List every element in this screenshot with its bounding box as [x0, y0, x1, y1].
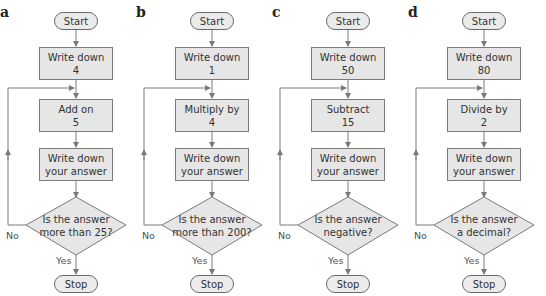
decision-line1: Is the answer — [298, 213, 398, 226]
step-text-line2: 4 — [176, 116, 248, 129]
decision-line1: Is the answer — [434, 213, 534, 226]
step-write-answer: Write down your answer — [447, 148, 521, 181]
step-write-initial: Write down 50 — [311, 47, 385, 80]
decision-text: Is the answer negative? — [298, 213, 398, 239]
step-write-answer: Write down your answer — [39, 148, 113, 181]
decision-line2: more than 25? — [26, 226, 126, 239]
step-write-initial: Write down 80 — [447, 47, 521, 80]
decision-text: Is the answer more than 25? — [26, 213, 126, 239]
step-text-line2: 5 — [40, 116, 112, 129]
stop-terminal: Stop — [190, 275, 234, 293]
step-text-line1: Multiply by — [176, 103, 248, 116]
step-text-line2: 50 — [312, 64, 384, 77]
decision-line1: Is the answer — [26, 213, 126, 226]
step-operation: Subtract 15 — [311, 99, 385, 132]
step-text-line2: 1 — [176, 64, 248, 77]
step-write-initial: Write down 4 — [39, 47, 113, 80]
step-text-line2: 15 — [312, 116, 384, 129]
step-operation: Multiply by 4 — [175, 99, 249, 132]
panel-letter: a — [0, 4, 9, 20]
no-label: No — [6, 230, 19, 241]
step-text-line2: 4 — [40, 64, 112, 77]
decision-line2: more than 200? — [162, 226, 262, 239]
step-text-line2: your answer — [448, 165, 520, 178]
decision-line2: a decimal? — [434, 226, 534, 239]
step-write-initial: Write down 1 — [175, 47, 249, 80]
step-text-line1: Add on — [40, 103, 112, 116]
decision-line2: negative? — [298, 226, 398, 239]
step-text-line1: Divide by — [448, 103, 520, 116]
start-terminal: Start — [326, 12, 370, 30]
step-text-line1: Subtract — [312, 103, 384, 116]
step-text-line1: Write down — [312, 152, 384, 165]
yes-label: Yes — [56, 255, 71, 266]
panel-letter: c — [272, 4, 281, 20]
step-text-line1: Write down — [312, 51, 384, 64]
decision-text: Is the answer a decimal? — [434, 213, 534, 239]
yes-label: Yes — [464, 255, 479, 266]
panel-letter: d — [408, 4, 418, 20]
stop-terminal: Stop — [54, 275, 98, 293]
stop-terminal: Stop — [462, 275, 506, 293]
no-label: No — [278, 230, 291, 241]
decision-text: Is the answer more than 200? — [162, 213, 262, 239]
step-write-answer: Write down your answer — [311, 148, 385, 181]
step-write-answer: Write down your answer — [175, 148, 249, 181]
no-label: No — [142, 230, 155, 241]
panel-letter: b — [136, 4, 146, 20]
step-text-line2: 2 — [448, 116, 520, 129]
stop-terminal: Stop — [326, 275, 370, 293]
step-text-line1: Write down — [176, 152, 248, 165]
yes-label: Yes — [328, 255, 343, 266]
start-terminal: Start — [54, 12, 98, 30]
decision-line1: Is the answer — [162, 213, 262, 226]
step-text-line1: Write down — [40, 51, 112, 64]
step-text-line1: Write down — [448, 152, 520, 165]
step-operation: Add on 5 — [39, 99, 113, 132]
start-terminal: Start — [462, 12, 506, 30]
step-text-line1: Write down — [176, 51, 248, 64]
step-text-line1: Write down — [40, 152, 112, 165]
step-text-line2: 80 — [448, 64, 520, 77]
no-label: No — [414, 230, 427, 241]
step-text-line2: your answer — [40, 165, 112, 178]
yes-label: Yes — [192, 255, 207, 266]
step-operation: Divide by 2 — [447, 99, 521, 132]
step-text-line2: your answer — [312, 165, 384, 178]
step-text-line2: your answer — [176, 165, 248, 178]
start-terminal: Start — [190, 12, 234, 30]
step-text-line1: Write down — [448, 51, 520, 64]
